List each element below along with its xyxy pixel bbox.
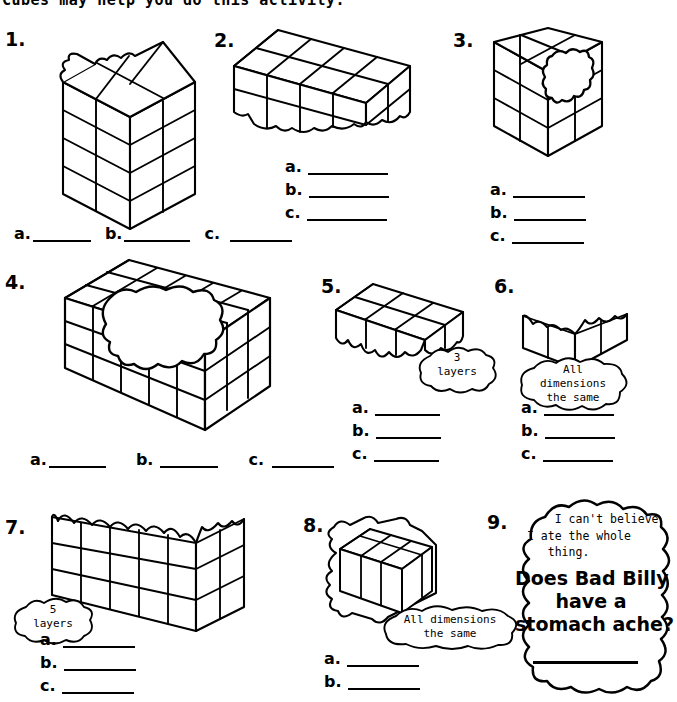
blank-line[interactable] — [376, 426, 441, 439]
blank-b-problem-7[interactable]: b. — [40, 655, 136, 671]
blank-line[interactable] — [545, 426, 615, 439]
blank-line[interactable] — [348, 677, 420, 690]
blank-b-problem-5[interactable]: b. — [352, 423, 441, 439]
blank-c-problem-6[interactable]: c. — [521, 446, 615, 462]
problem-number-1: 1. — [5, 30, 25, 49]
blank-line[interactable] — [543, 449, 613, 462]
blank-a-problem-4[interactable]: a. — [30, 452, 106, 468]
answer-blanks-problem-8: a. b. — [324, 651, 420, 690]
blank-c-problem-5[interactable]: c. — [352, 446, 441, 462]
callout-text-problem-8: All dimensionsthe same — [378, 613, 522, 641]
callout-text-problem-5: 3layers — [414, 351, 500, 379]
blank-line[interactable] — [513, 185, 585, 198]
callout-text-problem-7: 5layers — [8, 603, 98, 631]
blank-b-problem-4[interactable]: b. — [136, 452, 219, 468]
blank-line[interactable] — [64, 658, 136, 671]
blank-line[interactable] — [375, 403, 440, 416]
blank-line[interactable] — [514, 208, 586, 221]
answer-blanks-problem-1: a. b. c. — [14, 226, 292, 242]
answer-blanks-problem-2: a. b. c. — [285, 159, 389, 221]
problem-number-3: 3. — [453, 31, 473, 50]
problem-number-4: 4. — [5, 273, 25, 292]
blank-c-problem-2[interactable]: c. — [285, 205, 389, 221]
figure-problem-3 — [492, 26, 612, 171]
figure-problem-1 — [55, 34, 225, 229]
blank-line[interactable] — [512, 231, 584, 244]
blank-c-problem-1[interactable]: c. — [204, 226, 292, 242]
blank-a-problem-7[interactable]: a. — [40, 632, 136, 648]
blank-line[interactable] — [347, 654, 419, 667]
answer-blanks-problem-3: a. b. c. — [490, 182, 586, 244]
answer-blanks-problem-7: a. b. c. — [40, 632, 136, 694]
figure-problem-4 — [62, 258, 277, 438]
answer-line-problem-9[interactable] — [533, 661, 638, 664]
figure-problem-2 — [232, 28, 422, 153]
blank-b-problem-1[interactable]: b. — [105, 226, 191, 242]
blank-b-problem-6[interactable]: b. — [521, 423, 615, 439]
blank-c-problem-4[interactable]: c. — [248, 452, 334, 468]
blank-c-problem-3[interactable]: c. — [490, 228, 586, 244]
blank-line[interactable] — [160, 455, 218, 468]
blank-a-problem-2[interactable]: a. — [285, 159, 389, 175]
blank-line[interactable] — [49, 455, 106, 468]
worksheet-page: Cubes may help you do this activity. 1. — [0, 0, 677, 702]
blank-a-problem-3[interactable]: a. — [490, 182, 586, 198]
quote-small-problem-9: I can't believe I ate the whole thing. — [527, 511, 673, 561]
problem-number-7: 7. — [5, 518, 25, 537]
problem-number-6: 6. — [494, 277, 514, 296]
blank-line[interactable] — [308, 162, 388, 175]
answer-blanks-problem-6: a. b. c. — [521, 400, 615, 462]
blank-c-problem-7[interactable]: c. — [40, 678, 136, 694]
answer-blanks-problem-4: a. b. c. — [30, 452, 334, 468]
blank-line[interactable] — [272, 455, 334, 468]
blank-line[interactable] — [309, 185, 389, 198]
blank-line[interactable] — [230, 229, 292, 242]
blank-line[interactable] — [544, 403, 614, 416]
worksheet-header-text: Cubes may help you do this activity. — [2, 0, 345, 9]
blank-line[interactable] — [62, 681, 134, 694]
blank-b-problem-3[interactable]: b. — [490, 205, 586, 221]
blank-line[interactable] — [63, 635, 135, 648]
blank-a-problem-5[interactable]: a. — [352, 400, 441, 416]
callout-problem-5: 3layers — [414, 344, 500, 396]
blank-b-problem-8[interactable]: b. — [324, 674, 420, 690]
blank-line[interactable] — [307, 208, 387, 221]
blank-a-problem-1[interactable]: a. — [14, 226, 91, 242]
blank-a-problem-6[interactable]: a. — [521, 400, 615, 416]
blank-line[interactable] — [124, 229, 190, 242]
blank-line[interactable] — [33, 229, 91, 242]
blank-b-problem-2[interactable]: b. — [285, 182, 389, 198]
blank-line[interactable] — [374, 449, 439, 462]
answer-blanks-problem-5: a. b. c. — [352, 400, 441, 462]
quote-big-problem-9: Does Bad Billy have a stomach ache? — [515, 567, 667, 637]
blank-a-problem-8[interactable]: a. — [324, 651, 420, 667]
speech-blob-problem-9: I can't believe I ate the whole thing. D… — [505, 493, 677, 698]
callout-problem-8: All dimensionsthe same — [378, 604, 522, 652]
